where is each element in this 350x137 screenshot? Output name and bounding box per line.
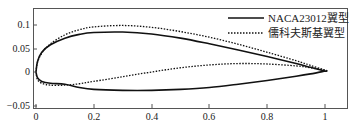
y-tick-label: −0.05 <box>7 100 30 111</box>
x-tick-label: 0.2 <box>88 111 101 122</box>
x-tick-label: 0.4 <box>146 111 159 122</box>
y-axis: 0.1 0.05 0 −0.05 <box>7 19 37 111</box>
naca23012-curve <box>36 32 327 90</box>
y-tick-label: 0.1 <box>18 19 31 30</box>
y-tick-label: 0 <box>25 66 30 77</box>
legend-label-joukowski: 儒科夫斯基翼型 <box>268 26 345 39</box>
airfoil-chart: 0 0.2 0.4 0.6 0.8 1 0.1 0.05 0 −0.05 NAC… <box>0 0 350 137</box>
legend-label-naca: NACA23012翼型 <box>268 11 349 24</box>
x-tick-label: 1 <box>323 111 328 122</box>
x-axis: 0 0.2 0.4 0.6 0.8 1 <box>34 104 328 122</box>
x-tick-label: 0.6 <box>203 111 216 122</box>
y-tick-label: 0.05 <box>13 43 31 54</box>
x-tick-label: 0.8 <box>261 111 274 122</box>
legend: NACA23012翼型 儒科夫斯基翼型 <box>228 11 349 39</box>
x-tick-label: 0 <box>34 111 39 122</box>
